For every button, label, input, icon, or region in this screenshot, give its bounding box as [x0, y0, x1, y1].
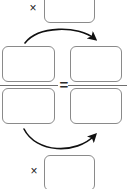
answer-box-top[interactable]: [44, 0, 95, 23]
multiply-icon-top: ×: [27, 1, 39, 15]
left-numerator-box[interactable]: [2, 46, 55, 82]
answer-box-bottom[interactable]: [44, 155, 95, 189]
right-numerator-box[interactable]: [70, 46, 122, 82]
left-fraction-bar: [0, 85, 58, 86]
multiply-icon-bottom: ×: [28, 164, 40, 178]
left-denominator-box[interactable]: [2, 88, 55, 124]
proportion-diagram: × = ×: [0, 0, 127, 189]
right-denominator-box[interactable]: [70, 88, 122, 124]
right-fraction-bar: [68, 85, 127, 86]
